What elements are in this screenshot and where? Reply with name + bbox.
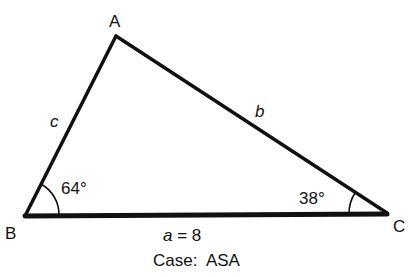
vertex-label-c: C <box>393 218 405 235</box>
side-a-equals: = <box>177 226 192 245</box>
angle-arc-b <box>41 184 59 215</box>
angle-arc-c <box>349 193 355 214</box>
angle-label-c: 38° <box>299 190 325 207</box>
side-b <box>116 36 387 213</box>
side-label-a: a = 8 <box>163 227 201 244</box>
triangle-figure <box>0 0 416 277</box>
side-label-b: b <box>255 103 264 120</box>
vertex-label-b: B <box>5 225 16 242</box>
vertex-label-a: A <box>109 13 120 30</box>
side-a-variable: a <box>163 226 172 245</box>
angle-label-b: 64° <box>61 180 87 197</box>
side-label-c: c <box>50 113 59 130</box>
side-a <box>25 214 387 216</box>
caption: Case: ASA <box>153 252 240 269</box>
side-a-value: 8 <box>192 226 201 245</box>
